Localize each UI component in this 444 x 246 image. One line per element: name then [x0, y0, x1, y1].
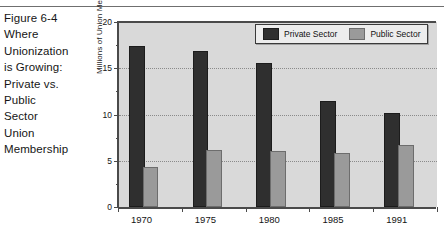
legend-swatch-public-icon [349, 28, 365, 40]
y-axis-line [117, 21, 119, 208]
caption-line-5: Public [4, 92, 90, 108]
bar-chart: Millions of Union Members 05101520 Priva… [96, 12, 440, 236]
y-axis-tick-label: 0 [107, 203, 112, 212]
caption-line-1: Where [4, 26, 90, 42]
x-axis-label-1970: 1970 [131, 214, 152, 225]
x-axis-label-1980: 1980 [259, 214, 280, 225]
page-top-rule [0, 6, 444, 7]
legend-label-private: Private Sector [284, 30, 337, 39]
caption-line-4: Private vs. [4, 76, 90, 92]
y-axis-tick-label: 10 [103, 111, 112, 120]
caption-line-8: Membership [4, 141, 90, 157]
x-axis-tick [182, 207, 183, 212]
caption-line-3: is Growing: [4, 59, 90, 75]
x-axis-label-1975: 1975 [195, 214, 216, 225]
bar-public-1991 [398, 145, 414, 207]
legend-swatch-private-icon [263, 28, 279, 40]
x-axis-line [118, 207, 436, 209]
legend-item-private: Private Sector [263, 28, 337, 40]
bar-public-1970 [143, 167, 159, 207]
caption-line-0: Figure 6-4 [4, 10, 90, 26]
y-axis-tick-label: 15 [103, 64, 112, 73]
caption-line-2: Unionization [4, 43, 90, 59]
x-axis-tick [118, 207, 119, 212]
bar-public-1975 [206, 150, 222, 207]
bar-public-1985 [334, 153, 350, 207]
gridline [119, 68, 437, 69]
x-axis-label-1991: 1991 [386, 214, 407, 225]
chart-legend: Private Sector Public Sector [255, 24, 428, 44]
bar-public-1980 [270, 151, 286, 207]
x-axis-tick [309, 207, 310, 212]
legend-item-public: Public Sector [349, 28, 420, 40]
y-axis-tick-label: 5 [107, 157, 112, 166]
figure-page: Figure 6-4 Where Unionization is Growing… [0, 0, 444, 246]
x-axis-tick [373, 207, 374, 212]
caption-line-7: Union [4, 125, 90, 141]
y-axis-tick-label: 20 [103, 18, 112, 27]
plot-area: 05101520 [118, 22, 437, 207]
x-axis-tick [437, 207, 438, 212]
legend-label-public: Public Sector [370, 30, 420, 39]
caption-line-6: Sector [4, 108, 90, 124]
x-axis-label-1985: 1985 [322, 214, 343, 225]
figure-caption: Figure 6-4 Where Unionization is Growing… [4, 10, 90, 158]
plot-top-border [118, 21, 436, 23]
x-axis-tick [246, 207, 247, 212]
